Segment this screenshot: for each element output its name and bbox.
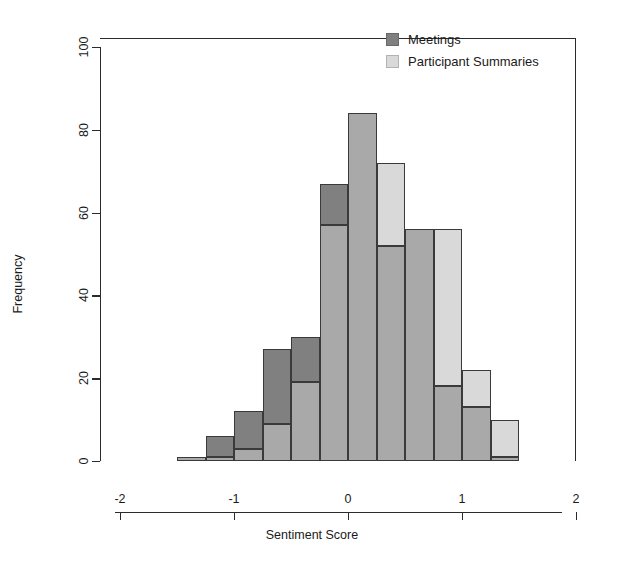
x-tick-label: -1 (228, 492, 239, 506)
legend-item: Participant Summaries (386, 52, 539, 71)
histogram-bar-overlap (434, 386, 463, 461)
histogram-bar-meetings (320, 184, 349, 225)
y-tick-label: 0 (77, 458, 91, 465)
y-tick-label: 60 (77, 206, 91, 220)
y-tick-label: 20 (77, 371, 91, 385)
y-tick (92, 213, 100, 214)
histogram-bar-overlap (291, 382, 320, 461)
x-tick-label: 2 (573, 492, 580, 506)
y-tick (92, 295, 100, 296)
histogram-bar-overlap (377, 246, 406, 461)
histogram-bar-meetings (234, 411, 263, 448)
x-tick-label: -2 (114, 492, 125, 506)
x-tick (462, 512, 463, 520)
y-tick (92, 461, 100, 462)
histogram-bar-meetings (291, 337, 320, 383)
chart-legend: MeetingsParticipant Summaries (386, 30, 539, 71)
y-tick (92, 130, 100, 131)
histogram-bar-participant-summaries (377, 163, 406, 246)
histogram-bar-participant-summaries (462, 370, 491, 407)
histogram-bar-overlap (206, 457, 235, 461)
histogram-bars (100, 38, 576, 461)
y-tick-label: 40 (77, 288, 91, 302)
histogram-bar-overlap (320, 225, 349, 461)
histogram-bar-overlap (177, 457, 206, 461)
x-tick (576, 512, 577, 520)
histogram-bar-overlap (491, 457, 520, 461)
legend-item: Meetings (386, 30, 539, 49)
x-axis-line (115, 512, 562, 513)
x-tick (234, 512, 235, 520)
y-tick-label: 80 (77, 123, 91, 137)
histogram-bar-overlap (348, 113, 377, 461)
x-tick-label: 1 (459, 492, 466, 506)
legend-swatch-icon (386, 55, 399, 68)
histogram-figure: 020406080100 -2-1012 Frequency Sentiment… (0, 0, 624, 568)
x-tick (348, 512, 349, 520)
histogram-bar-overlap (462, 407, 491, 461)
legend-label: Participant Summaries (408, 54, 539, 69)
histogram-bar-overlap (234, 449, 263, 461)
histogram-bar-overlap (263, 424, 292, 461)
histogram-bar-meetings (263, 349, 292, 424)
x-tick-label: 0 (345, 492, 352, 506)
y-tick (92, 47, 100, 48)
x-tick (120, 512, 121, 520)
legend-label: Meetings (408, 32, 461, 47)
histogram-bar-meetings (206, 436, 235, 457)
y-axis-title: Frequency (11, 254, 25, 313)
y-tick-label: 100 (77, 37, 91, 58)
plot-area (100, 38, 576, 461)
x-axis-title: Sentiment Score (0, 528, 624, 542)
histogram-bar-participant-summaries (434, 229, 463, 386)
legend-swatch-icon (386, 33, 399, 46)
histogram-bar-participant-summaries (491, 420, 520, 457)
histogram-bar-overlap (405, 229, 434, 461)
y-tick (92, 378, 100, 379)
